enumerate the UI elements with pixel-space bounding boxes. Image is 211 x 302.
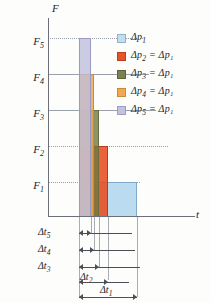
measure-label-dt1: Δt1 <box>100 284 112 298</box>
y-tick-F3: F3 <box>6 103 44 122</box>
legend-item-dp5: Δp5 = Δp₁ <box>117 102 174 118</box>
legend-item-dp1: Δp1 <box>117 30 174 46</box>
bar-impulse-5 <box>79 38 91 217</box>
guide-dt1 <box>137 217 138 297</box>
legend-item-dp4: Δp4 = Δp₁ <box>117 84 174 100</box>
y-tick-F1: F1 <box>6 175 44 194</box>
arrow-right-dt4 <box>90 247 94 253</box>
legend-label-dp4: Δp4 = Δp₁ <box>131 85 174 99</box>
arrow-left-dt3 <box>79 264 83 270</box>
legend: Δp1 Δp2 = Δp₁ Δp3 = Δp₁ Δp4 = Δp₁ Δp5 = … <box>117 30 174 120</box>
legend-item-dp3: Δp3 = Δp₁ <box>117 66 174 82</box>
x-axis-label: t <box>196 208 199 220</box>
measure-label-dt4: Δt4 <box>38 243 50 257</box>
guide-dt2 <box>108 217 109 280</box>
arrow-right-dt3 <box>95 264 99 270</box>
measure-label-dt5: Δt5 <box>38 226 50 240</box>
legend-label-dp1: Δp1 <box>131 31 146 45</box>
guide-dt4 <box>94 217 95 251</box>
arrow-left-dt5 <box>79 230 83 236</box>
legend-item-dp2: Δp2 = Δp₁ <box>117 48 174 64</box>
y-tick-F5: F5 <box>6 31 44 50</box>
y-tick-F2: F2 <box>6 139 44 158</box>
arrow-right-dt1 <box>133 294 137 300</box>
arrow-left-dt2 <box>79 279 83 285</box>
y-tick-F4: F4 <box>6 67 44 86</box>
arrow-left-dt1 <box>79 294 83 300</box>
legend-swatch-dp3 <box>117 70 126 79</box>
arrow-right-dt5 <box>87 230 91 236</box>
legend-label-dp5: Δp5 = Δp₁ <box>131 103 174 117</box>
y-axis-label: F <box>52 2 59 14</box>
arrow-left-dt4 <box>79 247 83 253</box>
legend-swatch-dp1 <box>117 34 126 43</box>
legend-swatch-dp4 <box>117 88 126 97</box>
gridline-F2 <box>48 146 168 147</box>
impulse-force-time-figure: F t F5 F4 F3 F2 F1 Δp1 Δp2 = Δp₁ Δp3 = Δ… <box>0 0 211 302</box>
legend-label-dp2: Δp2 = Δp₁ <box>131 49 174 63</box>
legend-label-dp3: Δp3 = Δp₁ <box>131 67 174 81</box>
guide-dt5 <box>91 217 92 234</box>
legend-swatch-dp5 <box>117 106 126 115</box>
guide-origin <box>79 217 80 297</box>
guide-dt3 <box>99 217 100 268</box>
measure-label-dt3: Δt3 <box>38 260 50 274</box>
legend-swatch-dp2 <box>117 52 126 61</box>
x-axis-line <box>48 216 195 217</box>
y-axis-line <box>48 18 49 217</box>
